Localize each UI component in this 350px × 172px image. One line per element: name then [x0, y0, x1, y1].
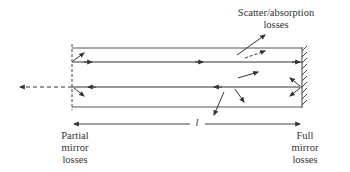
scatter-arrows: [214, 35, 265, 115]
partial-mirror-loss-arrows: [73, 53, 84, 96]
full-mirror: [302, 46, 307, 108]
partial-mirror-losses-label: Partial mirror losses: [50, 130, 100, 166]
full-label-line2: mirror: [280, 142, 330, 154]
partial-label-line1: Partial: [50, 130, 100, 142]
full-label-line3: losses: [280, 154, 330, 166]
scatter-label-line1: Scatter/absorption: [226, 7, 326, 19]
length-label: l: [190, 117, 204, 129]
scatter-label-line2: losses: [226, 19, 326, 31]
scatter-absorption-label: Scatter/absorption losses: [226, 7, 326, 31]
partial-label-line2: mirror: [50, 142, 100, 154]
full-mirror-losses-label: Full mirror losses: [280, 130, 330, 166]
partial-label-line3: losses: [50, 154, 100, 166]
full-label-line1: Full: [280, 130, 330, 142]
cavity-rectangle: [72, 48, 302, 107]
